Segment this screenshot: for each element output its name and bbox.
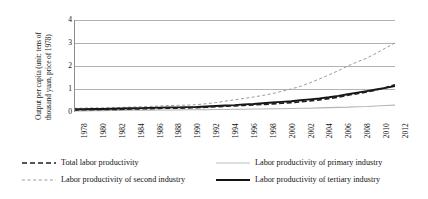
x-tick-label: 1986 [157, 123, 165, 138]
x-tick-label: 1988 [176, 123, 184, 138]
x-tick-label: 2006 [346, 123, 354, 138]
x-tick-label: 2002 [308, 123, 316, 138]
y-tick-label: 4 [62, 16, 72, 24]
light-solid-line-icon [216, 158, 250, 168]
x-axis-tick-labels: 1978198019821984198619881990199219941996… [74, 114, 395, 148]
plot-svg [74, 20, 395, 112]
data-series-group [74, 43, 395, 111]
light-dashed-line-icon [22, 175, 56, 185]
x-tick-label: 1980 [100, 123, 108, 138]
series-line [74, 85, 395, 110]
y-tick-label: 0 [62, 108, 72, 116]
y-axis-tick-labels: 43210 [60, 20, 72, 112]
x-tick-label: 1994 [232, 123, 240, 138]
legend-item-total-labor-productivity[interactable]: Total labor productivity [22, 156, 139, 170]
y-axis-label: Output per capita (unit: tens of thousan… [26, 8, 62, 120]
x-tick-label: 1990 [195, 123, 203, 138]
y-tick-label: 2 [62, 62, 72, 70]
x-tick-label: 1978 [81, 123, 89, 138]
chart-legend: Total labor productivity Labor productiv… [0, 154, 428, 199]
x-tick-label: 1998 [270, 123, 278, 138]
y-tick-label: 3 [62, 39, 72, 47]
x-tick-label: 1984 [138, 123, 146, 138]
legend-item-labor-productivity-of-tertiary-industry[interactable]: Labor productivity of tertiary industry [216, 173, 380, 187]
legend-label: Labor productivity of second industry [61, 175, 185, 185]
legend-item-labor-productivity-of-primary-industry[interactable]: Labor productivity of primary industry [216, 156, 382, 170]
legend-item-labor-productivity-of-second-industry[interactable]: Labor productivity of second industry [22, 173, 185, 187]
x-tick-label: 1996 [251, 123, 259, 138]
legend-label: Total labor productivity [61, 158, 139, 168]
x-tick-label: 2012 [402, 123, 410, 138]
x-tick-label: 1992 [214, 123, 222, 138]
x-tick-label: 1982 [119, 123, 127, 138]
y-axis-label-line1: Output per capita (unit: tens of [35, 32, 44, 120]
x-tick-label: 2010 [384, 123, 392, 138]
x-tick-label: 2000 [289, 123, 297, 138]
chart-figure: Output per capita (unit: tens of thousan… [0, 0, 428, 199]
x-tick-label: 2004 [327, 123, 335, 138]
legend-label: Labor productivity of primary industry [255, 158, 382, 168]
legend-label: Labor productivity of tertiary industry [255, 175, 380, 185]
plot-area [74, 20, 395, 112]
x-tick-label: 2008 [365, 123, 373, 138]
bold-dashed-line-icon [22, 158, 56, 168]
series-line [74, 43, 395, 108]
y-axis-label-line2: thousand yuan, price of 1978) [45, 34, 54, 120]
bold-solid-line-icon [216, 175, 250, 185]
gridlines [74, 21, 395, 113]
y-tick-label: 1 [62, 85, 72, 93]
